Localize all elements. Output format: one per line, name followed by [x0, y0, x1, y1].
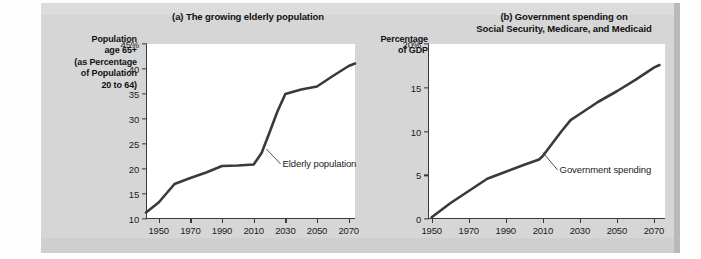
series-line: [146, 64, 355, 213]
figure-container: (a) The growing elderly population Popul…: [0, 0, 701, 259]
chart-b-series-svg: [360, 0, 701, 259]
chart-b-government-spending: (b) Government spending on Social Securi…: [360, 0, 701, 259]
annotation-leader-line: [543, 153, 558, 171]
chart-a-elderly-population: (a) The growing elderly population Popul…: [0, 0, 360, 259]
annotation-label: Elderly population: [283, 158, 357, 169]
annotation-label: Government spending: [560, 164, 652, 175]
annotation-leader-line: [266, 149, 280, 164]
series-line: [432, 65, 660, 217]
chart-a-series-svg: [0, 0, 360, 259]
